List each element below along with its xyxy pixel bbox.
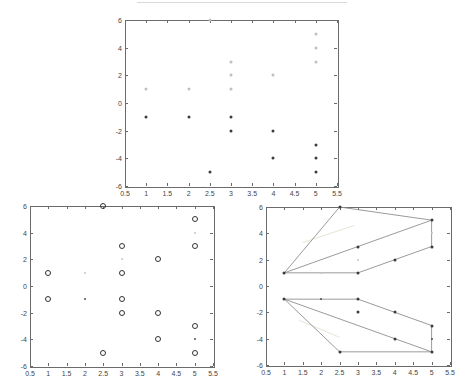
- y-tick-label: -6: [21, 363, 27, 370]
- x-tick-label: 3: [229, 190, 233, 197]
- data-point-cluster-points-dark: [430, 324, 433, 327]
- x-tick-label: 0.5: [261, 369, 271, 376]
- y-tick-label: 6: [23, 203, 27, 210]
- y-tick-label: 0: [118, 100, 122, 107]
- data-point-cluster-points-dark: [393, 258, 396, 261]
- data-point-circled-points: [45, 296, 51, 302]
- y-tick-right: [334, 103, 337, 104]
- upper-hull-edge: [340, 207, 432, 220]
- x-tick-bottom: [210, 183, 211, 186]
- x-tick-top: [146, 20, 147, 23]
- data-point-cluster-points-faint: [431, 232, 433, 234]
- y-tick-left: [30, 339, 33, 340]
- y-tick-label: -6: [116, 183, 122, 190]
- data-point-upper-cluster-light-points: [230, 88, 233, 91]
- x-tick-label: 5.5: [332, 190, 342, 197]
- data-point-circled-points: [119, 270, 125, 276]
- y-tick-left: [125, 131, 128, 132]
- data-point-cluster-points-dark: [430, 350, 433, 353]
- x-tick-top: [167, 20, 168, 23]
- x-tick-top: [176, 206, 177, 209]
- y-tick-left: [125, 48, 128, 49]
- y-tick-left: [30, 233, 33, 234]
- x-tick-top: [189, 20, 190, 23]
- x-tick-bottom: [252, 183, 253, 186]
- data-point-circled-points: [119, 310, 125, 316]
- x-tick-top: [48, 206, 49, 209]
- data-point-cluster-points-dark: [393, 311, 396, 314]
- data-point-cluster-points-dark: [283, 271, 286, 274]
- y-tick-right: [447, 365, 450, 366]
- hull-lines-layer: [266, 207, 450, 365]
- x-tick-bottom: [295, 183, 296, 186]
- data-point-cluster-points-dark: [357, 298, 360, 301]
- x-tick-label: 3.5: [247, 190, 257, 197]
- x-tick-bottom: [450, 362, 451, 365]
- x-tick-bottom: [48, 363, 49, 366]
- x-tick-top: [140, 206, 141, 209]
- x-tick-label: 2.5: [205, 190, 215, 197]
- data-point-lower-cluster-dark-points: [314, 157, 317, 160]
- y-tick-left: [30, 313, 33, 314]
- x-tick-label: 4: [271, 190, 275, 197]
- data-point-cluster-points-faint: [357, 259, 359, 261]
- x-tick-label: 5: [430, 369, 434, 376]
- y-tick-right: [210, 313, 213, 314]
- y-tick-left: [125, 186, 128, 187]
- data-point-circled-points: [192, 243, 198, 249]
- y-tick-left: [125, 103, 128, 104]
- data-point-lower-cluster-dark-points: [208, 171, 211, 174]
- y-tick-left: [30, 366, 33, 367]
- data-point-circled-points: [192, 216, 198, 222]
- x-tick-label: 4.5: [290, 190, 300, 197]
- data-point-circled-points: [100, 350, 106, 356]
- x-tick-label: 2.5: [98, 370, 108, 377]
- y-tick-right: [334, 131, 337, 132]
- data-point-lower-cluster-dark-points: [145, 115, 148, 118]
- data-point-circled-points: [119, 296, 125, 302]
- x-tick-label: 3.5: [372, 369, 382, 376]
- data-point-upper-cluster-light-points: [145, 88, 148, 91]
- data-point-circled-points: [100, 203, 106, 209]
- data-point-faint-small-dots: [121, 258, 123, 260]
- data-point-cluster-points-dark: [430, 219, 433, 222]
- x-tick-bottom: [85, 363, 86, 366]
- data-point-lower-cluster-dark-points: [314, 143, 317, 146]
- y-tick-left: [30, 286, 33, 287]
- y-tick-right: [210, 259, 213, 260]
- y-tick-label: 4: [118, 44, 122, 51]
- x-tick-top: [450, 207, 451, 210]
- y-tick-label: 4: [259, 230, 263, 237]
- y-tick-label: 4: [23, 229, 27, 236]
- data-point-cluster-points-small-dark: [320, 298, 322, 300]
- y-tick-right: [334, 158, 337, 159]
- y-tick-label: -4: [116, 155, 122, 162]
- data-point-lower-cluster-dark-points: [230, 115, 233, 118]
- x-tick-top: [273, 20, 274, 23]
- y-tick-right: [334, 20, 337, 21]
- x-tick-bottom: [337, 183, 338, 186]
- y-tick-label: 0: [259, 283, 263, 290]
- x-tick-bottom: [176, 363, 177, 366]
- x-tick-bottom: [213, 363, 214, 366]
- data-point-faint-small-dots: [194, 232, 196, 234]
- data-point-circled-points: [192, 323, 198, 329]
- lower-hull-edge: [284, 299, 339, 352]
- x-tick-top: [316, 20, 317, 23]
- axes-box: [30, 206, 215, 368]
- x-tick-label: 5: [193, 370, 197, 377]
- data-point-upper-cluster-light-points: [314, 32, 317, 35]
- y-tick-label: 2: [23, 256, 27, 263]
- x-tick-label: 3: [120, 370, 124, 377]
- y-tick-right: [334, 186, 337, 187]
- y-tick-right: [210, 339, 213, 340]
- y-tick-label: -2: [21, 309, 27, 316]
- x-tick-bottom: [189, 183, 190, 186]
- data-point-cluster-points-small-dark: [431, 338, 433, 340]
- y-tick-label: 6: [259, 204, 263, 211]
- x-tick-top: [231, 20, 232, 23]
- x-tick-bottom: [231, 183, 232, 186]
- x-tick-label: 1.5: [163, 190, 173, 197]
- y-tick-left: [30, 259, 33, 260]
- data-point-lower-cluster-dark-points: [187, 115, 190, 118]
